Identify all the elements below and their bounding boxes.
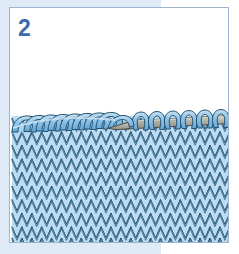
background-band-bottom [0,242,161,254]
knit-fabric [12,116,228,242]
illustration-panel: 2 [9,7,229,243]
knitting-diagram-svg [10,8,228,242]
live-stitches-on-needle [132,110,228,131]
illustration-canvas: 2 [0,0,239,254]
